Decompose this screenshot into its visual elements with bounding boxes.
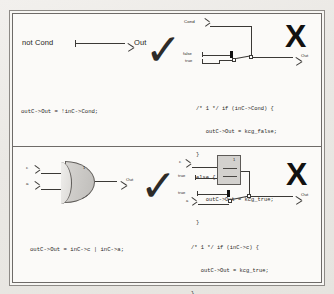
bottom-correct-input-c-label: c bbox=[26, 165, 28, 170]
top-incorrect-switch-wire bbox=[236, 56, 250, 59]
or-block-bar-top bbox=[223, 168, 237, 169]
top-incorrect-cond-chevron bbox=[205, 18, 211, 26]
code-line: /* 1 */ if (inC->Cond) { bbox=[196, 106, 277, 114]
top-incorrect-true-wire-step bbox=[219, 60, 220, 64]
bottom-incorrect-output-label: Out bbox=[301, 192, 308, 197]
bottom-correct-output-label: Out bbox=[126, 177, 133, 182]
top-correct-expression: outC->Out = !inC->Cond; bbox=[21, 108, 98, 115]
bottom-correct-expression: outC->Out = inC->c | inC->a; bbox=[30, 246, 124, 253]
bottom-incorrect-out-wire bbox=[251, 196, 293, 197]
top-incorrect-cond-wire-v bbox=[251, 26, 252, 56]
code-line: outC->Out = kcg_true; bbox=[191, 268, 269, 276]
bottom-incorrect-block-input-true-label: true bbox=[178, 173, 185, 178]
top-check-mark: ✓ bbox=[145, 28, 182, 72]
or-gate-notch bbox=[61, 162, 72, 204]
bottom-incorrect-switch-a-label: a bbox=[186, 198, 188, 203]
top-incorrect-false-label: false bbox=[183, 51, 192, 56]
bottom-correct-or-gate bbox=[65, 161, 95, 203]
panel-top: not Cond Out ✓ outC->Out = !inC->Cond; C… bbox=[13, 14, 321, 146]
bottom-correct-output-arrow bbox=[116, 181, 121, 189]
scanned-page: not Cond Out ✓ outC->Out = !inC->Cond; C… bbox=[0, 0, 334, 294]
bottom-incorrect-code: /* 1 */ if (inC->c) { outC->Out = kcg_tr… bbox=[191, 230, 269, 294]
top-incorrect-cond-wire-h bbox=[210, 26, 252, 27]
bottom-correct-out-wire bbox=[95, 181, 117, 182]
bottom-check-mark: ✓ bbox=[140, 164, 177, 208]
top-incorrect-false-port bbox=[230, 51, 233, 58]
bottom-correct-input-a-label: a bbox=[26, 181, 29, 186]
top-incorrect-false-wire bbox=[202, 55, 231, 56]
top-incorrect-true-label: true bbox=[185, 58, 192, 63]
code-line: /* 1 */ if (inC->c) { bbox=[191, 245, 269, 253]
code-line: outC->Out = kcg_false; bbox=[196, 129, 277, 137]
bottom-incorrect-block-input-c-wire bbox=[192, 167, 218, 168]
or-block-bar-bottom bbox=[223, 176, 237, 177]
bottom-incorrect-block-input-true-wire bbox=[195, 178, 218, 179]
bottom-incorrect-switch-true-label: true bbox=[178, 190, 185, 195]
bottom-incorrect-switch-wire bbox=[232, 196, 248, 200]
top-correct-wire bbox=[75, 43, 125, 44]
bottom-correct-input-a-chevron bbox=[35, 181, 41, 189]
top-incorrect-cond-label: Cond bbox=[184, 19, 195, 24]
panel-bottom: c a 1 Out ✓ outC->Out = inC->c | inC->a;… bbox=[13, 147, 321, 283]
bottom-incorrect-block-input-c-label: c bbox=[179, 159, 181, 164]
top-incorrect-output-arrow bbox=[291, 57, 296, 65]
bottom-incorrect-output-arrow bbox=[291, 196, 296, 204]
top-incorrect-out-wire bbox=[253, 57, 293, 58]
top-incorrect-true-wire2 bbox=[219, 60, 233, 61]
bottom-incorrect-switch-true-port bbox=[227, 190, 230, 197]
bottom-incorrect-or-block bbox=[217, 155, 241, 185]
top-correct-input-label: not Cond bbox=[22, 38, 53, 47]
bottom-incorrect-block-input-c-chevron bbox=[186, 159, 192, 167]
bottom-correct-gate-index: 1 bbox=[83, 165, 85, 170]
top-x-mark: X bbox=[285, 20, 306, 52]
top-incorrect-true-wire bbox=[202, 63, 220, 64]
top-correct-output-arrow bbox=[123, 43, 128, 51]
bottom-correct-input-c-chevron bbox=[35, 165, 41, 173]
bottom-incorrect-block-out-wire-v bbox=[249, 171, 250, 195]
bottom-incorrect-switch-a-wire bbox=[198, 204, 229, 205]
bottom-x-mark: X bbox=[286, 158, 307, 190]
bottom-incorrect-block-index: 1 bbox=[233, 157, 235, 162]
bottom-incorrect-switch-true-wire bbox=[197, 194, 228, 195]
